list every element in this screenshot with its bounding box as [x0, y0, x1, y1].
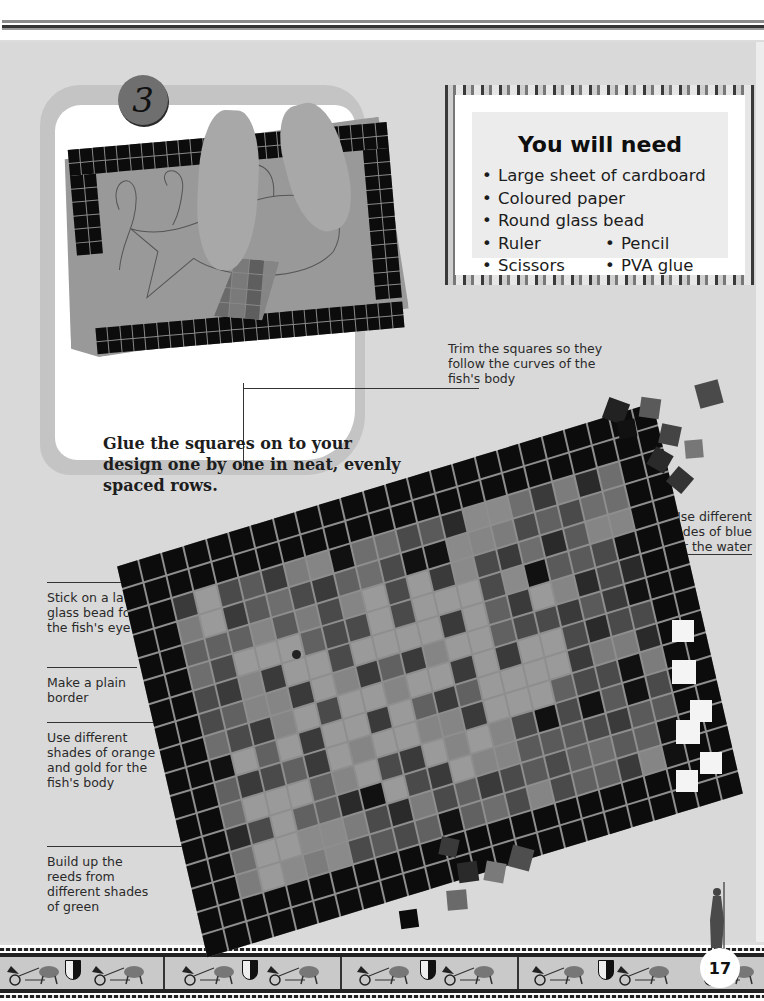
- border-tile: [166, 140, 178, 153]
- border-tile: [375, 122, 387, 135]
- border-tile: [182, 320, 194, 333]
- chariot-icon: [355, 960, 415, 986]
- border-tile: [74, 215, 88, 229]
- border-tile: [244, 328, 256, 341]
- loose-tile: [658, 423, 682, 447]
- border-tile: [268, 312, 280, 325]
- number-badge-icon: 3: [118, 75, 168, 125]
- border-tile: [375, 286, 389, 300]
- material-item: Coloured paper: [482, 188, 706, 211]
- border-tile: [120, 325, 132, 338]
- border-tile: [366, 304, 378, 317]
- loose-tile: [617, 419, 638, 440]
- border-tile: [194, 319, 206, 332]
- loose-tile: [700, 752, 722, 774]
- annotation-body: Use different shades of orange and gold …: [47, 730, 157, 790]
- border-tile: [364, 163, 378, 177]
- border-tile: [343, 319, 355, 332]
- border-tile: [354, 305, 366, 318]
- border-tile: [280, 311, 292, 324]
- border-tile: [381, 203, 395, 217]
- step-caption: Glue the squares on to your design one b…: [103, 433, 403, 496]
- border-tile: [72, 202, 86, 216]
- border-tile: [169, 321, 181, 334]
- border-tile: [342, 306, 354, 319]
- loose-tile: [676, 720, 700, 744]
- tail-tile: [248, 259, 263, 274]
- annotation-trim: Trim the squares so they follow the curv…: [448, 341, 608, 386]
- border-tile: [374, 272, 388, 286]
- border-tile: [220, 330, 232, 343]
- border-tile: [382, 216, 396, 230]
- border-tile: [367, 317, 379, 330]
- loose-tile: [672, 620, 694, 642]
- border-tile: [117, 145, 129, 158]
- cross-shield-icon: [598, 960, 614, 980]
- annotation-reeds: Build up the reeds from different shades…: [47, 854, 157, 914]
- material-item: Scissors: [482, 256, 565, 275]
- border-tile: [384, 230, 398, 244]
- loose-tile: [438, 836, 459, 857]
- border-tile: [88, 227, 102, 241]
- border-tile: [292, 310, 304, 323]
- border-tile: [87, 214, 101, 228]
- border-tile: [281, 325, 293, 338]
- border-tile: [329, 307, 341, 320]
- loose-tile: [446, 889, 468, 911]
- border-tile: [95, 327, 107, 340]
- top-rule-divider: [2, 20, 764, 30]
- border-tile: [369, 218, 383, 232]
- materials-list: Large sheet of cardboard Coloured paper …: [482, 165, 706, 233]
- border-tile: [378, 162, 392, 176]
- border-tile: [269, 326, 281, 339]
- border-tile: [158, 335, 170, 348]
- athena-statue-icon: [705, 880, 729, 952]
- border-tile: [265, 132, 277, 145]
- loose-tile: [690, 700, 712, 722]
- border-tile: [351, 124, 363, 137]
- loose-tile: [676, 770, 698, 792]
- loose-tile: [483, 860, 506, 883]
- border-tile: [294, 323, 306, 336]
- border-tile: [170, 334, 182, 347]
- border-tile: [365, 177, 379, 191]
- border-tile: [207, 331, 219, 344]
- loose-tile: [457, 861, 480, 884]
- border-tile: [178, 139, 190, 152]
- border-tile: [121, 339, 133, 352]
- frieze-divider: [517, 957, 519, 989]
- border-tile: [81, 161, 93, 174]
- border-tile: [70, 175, 84, 189]
- border-tile: [108, 326, 120, 339]
- loose-tile: [672, 660, 696, 684]
- border-tile: [145, 323, 157, 336]
- border-tile: [386, 257, 400, 271]
- border-tile: [370, 231, 384, 245]
- tail-tile: [247, 274, 262, 289]
- leader-line: [243, 388, 479, 389]
- border-tile: [305, 309, 317, 322]
- border-tile: [363, 149, 377, 163]
- border-tile: [219, 316, 231, 329]
- border-tile: [75, 229, 89, 243]
- chariot-icon: [265, 960, 325, 986]
- border-tile: [331, 320, 343, 333]
- border-tile: [318, 321, 330, 334]
- tail-tile: [229, 303, 244, 318]
- loose-tile: [639, 397, 662, 420]
- chariot-icon: [530, 960, 590, 986]
- border-tile: [380, 316, 392, 329]
- border-tile: [385, 244, 399, 258]
- chariot-icon: [440, 960, 500, 986]
- border-tile: [376, 136, 388, 149]
- border-tile: [371, 245, 385, 259]
- border-tile: [195, 332, 207, 345]
- frieze-divider: [340, 957, 342, 989]
- border-tile: [372, 259, 386, 273]
- border-tile: [154, 141, 166, 154]
- border-tile: [109, 340, 121, 353]
- tail-tile: [231, 288, 246, 303]
- page-number: 17: [709, 959, 731, 978]
- border-tile: [387, 271, 401, 285]
- border-tile: [306, 322, 318, 335]
